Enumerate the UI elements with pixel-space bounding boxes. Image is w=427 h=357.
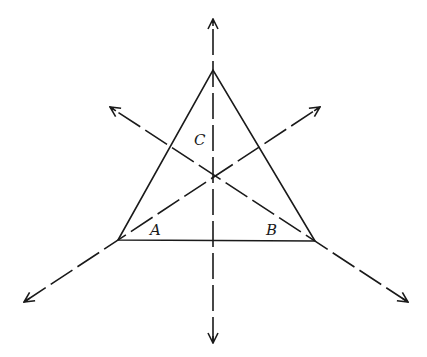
geometry-diagram (0, 0, 427, 357)
bisector-line-b (110, 107, 408, 302)
bisector-line-a (24, 107, 320, 302)
vertex-label-a: A (150, 223, 161, 238)
vertex-label-c: C (194, 133, 205, 148)
triangle (118, 70, 315, 241)
vertex-label-b: B (266, 223, 277, 238)
